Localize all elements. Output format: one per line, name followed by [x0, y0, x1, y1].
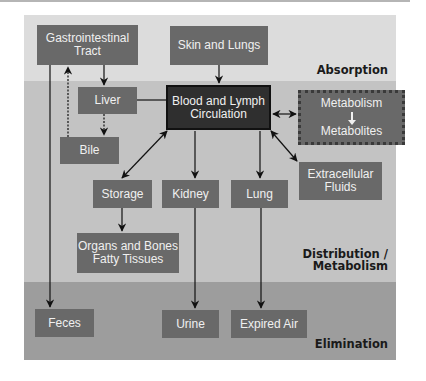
node-blood-and-lymph-circulation: Blood and Lymph Circulation	[166, 85, 271, 130]
node-extracellular-fluids: Extracellular Fluids	[299, 162, 382, 200]
arrow-down-icon	[351, 112, 353, 121]
node-gastrointestinal-tract: Gastrointestinal Tract	[37, 25, 138, 65]
node-storage: Storage	[93, 180, 152, 208]
node-skin-and-lungs: Skin and Lungs	[170, 26, 268, 65]
node-text: Fatty Tissues	[93, 253, 164, 266]
node-expired-air: Expired Air	[231, 310, 307, 338]
node-organs-bones-fatty-tissues: Organs and Bones Fatty Tissues	[77, 233, 179, 273]
label-distribution-line2: Metabolism	[302, 260, 388, 272]
label-elimination: Elimination	[315, 338, 388, 350]
node-liver: Liver	[78, 87, 137, 114]
node-text: Fluids	[324, 181, 356, 194]
node-urine: Urine	[162, 310, 219, 338]
label-absorption: Absorption	[317, 64, 388, 76]
node-bile: Bile	[60, 137, 119, 164]
node-kidney: Kidney	[162, 180, 219, 208]
node-text: Circulation	[190, 108, 247, 121]
node-text: Metabolism	[321, 97, 382, 110]
top-rule	[0, 0, 410, 2]
node-text: Blood and Lymph	[172, 95, 265, 108]
node-text: Tract	[74, 45, 101, 58]
node-lung: Lung	[231, 180, 288, 208]
label-distribution-metabolism: Distribution / Metabolism	[302, 248, 388, 272]
node-metabolism-metabolites: Metabolism Metabolites	[298, 90, 405, 145]
node-text: Metabolites	[321, 125, 382, 138]
node-feces: Feces	[35, 309, 94, 337]
